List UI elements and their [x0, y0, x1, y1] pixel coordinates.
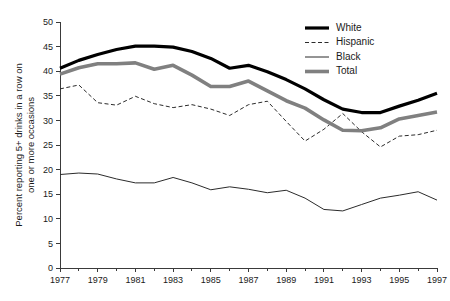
- x-tick-label: 1987: [238, 275, 258, 285]
- y-axis-title-line1: Percent reporting 5+ drinks in a row on: [13, 63, 24, 226]
- series-line-hispanic: [60, 85, 437, 147]
- y-tick-label: 30: [43, 116, 53, 126]
- chart-figure: Percent reporting 5+ drinks in a row on …: [0, 0, 450, 301]
- series-line-black: [60, 173, 437, 211]
- x-tick-label: 1993: [352, 275, 372, 285]
- x-tick-label: 1995: [389, 275, 409, 285]
- x-tick-label: 1989: [276, 275, 296, 285]
- x-tick-label: 1979: [88, 275, 108, 285]
- line-chart: Percent reporting 5+ drinks in a row on …: [0, 0, 450, 301]
- x-tick-label: 1983: [163, 275, 183, 285]
- y-tick-label: 40: [43, 66, 53, 76]
- y-tick-label: 15: [43, 189, 53, 199]
- y-axis-title: Percent reporting 5+ drinks in a row on …: [13, 63, 36, 226]
- y-axis-title-line2: one or more occasions: [25, 97, 36, 193]
- y-tick-label: 45: [43, 42, 53, 52]
- chart-legend: WhiteHispanicBlackTotal: [305, 22, 374, 77]
- legend-label-total: Total: [336, 65, 357, 76]
- x-axis: 1977197919811983198519871989199119931995…: [50, 268, 447, 285]
- legend-label-white: White: [336, 22, 362, 33]
- series-line-total: [60, 63, 437, 131]
- x-tick-label: 1997: [427, 275, 447, 285]
- data-series-layer: [60, 46, 437, 211]
- y-tick-label: 20: [43, 165, 53, 175]
- x-tick-label: 1977: [50, 275, 70, 285]
- legend-label-hispanic: Hispanic: [336, 36, 374, 47]
- y-tick-label: 25: [43, 140, 53, 150]
- y-tick-label: 5: [48, 239, 53, 249]
- y-tick-label: 0: [48, 263, 53, 273]
- legend-label-black: Black: [336, 51, 361, 62]
- y-axis: 05101520253035404550: [43, 17, 60, 273]
- y-tick-label: 10: [43, 214, 53, 224]
- x-tick-label: 1985: [201, 275, 221, 285]
- x-tick-label: 1981: [125, 275, 145, 285]
- x-tick-label: 1991: [314, 275, 334, 285]
- y-tick-label: 50: [43, 17, 53, 27]
- y-tick-label: 35: [43, 91, 53, 101]
